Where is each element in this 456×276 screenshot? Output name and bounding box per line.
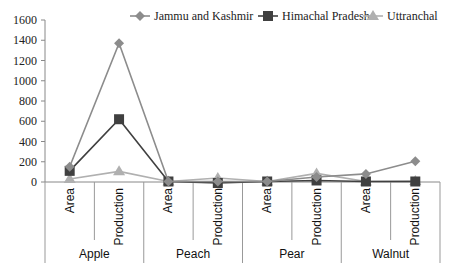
x-category-label: Production [112,188,126,245]
series-lines [64,38,422,188]
legend-label: Jammu and Kashmir [154,9,253,23]
x-group-label: Apple [79,247,110,261]
legend-label: Uttranchal [387,9,438,23]
y-tick-label: 400 [19,135,37,149]
legend-item: Uttranchal [363,9,438,23]
y-tick-label: 1400 [13,33,37,47]
x-category-label: Production [408,188,422,245]
x-category-label: Area [260,188,274,214]
x-category-label: Area [63,188,77,214]
y-axis: 02004006008001000120014001600 [13,13,45,189]
legend-item: Himachal Pradesh [258,9,370,23]
y-tick-label: 200 [19,155,37,169]
y-tick-label: 0 [31,175,37,189]
y-tick-label: 1600 [13,13,37,27]
legend-item: Jammu and Kashmir [130,9,253,23]
series-jammu-and-kashmir [65,38,421,186]
y-tick-label: 1000 [13,74,37,88]
x-category-label: Area [161,188,175,214]
x-category-label: Area [359,188,373,214]
legend: Jammu and KashmirHimachal PradeshUttranc… [130,9,438,23]
x-category-label: Production [211,188,225,245]
line-chart: 02004006008001000120014001600 AreaProduc… [0,0,456,276]
y-tick-label: 1200 [13,54,37,68]
legend-label: Himachal Pradesh [282,9,370,23]
x-axis: AreaProductionAreaProductionAreaProducti… [45,182,440,263]
y-tick-label: 600 [19,114,37,128]
x-group-label: Pear [279,247,304,261]
y-tick-label: 800 [19,94,37,108]
x-group-label: Walnut [372,247,410,261]
x-group-label: Peach [176,247,210,261]
x-category-label: Production [310,188,324,245]
